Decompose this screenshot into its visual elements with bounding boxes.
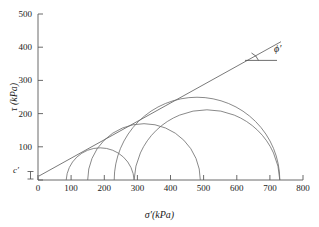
x-tick-label-500: 500 xyxy=(197,184,211,193)
x-axis-title: σ′(kPa) xyxy=(0,210,319,220)
x-tick-label-0: 0 xyxy=(36,184,41,193)
y-tick-label-100: 100 xyxy=(8,142,32,151)
x-tick-label-600: 600 xyxy=(230,184,244,193)
mohr-circles xyxy=(66,97,280,180)
x-axis-ticks xyxy=(38,175,303,180)
y-tick-label-500: 500 xyxy=(8,10,32,19)
x-tick-label-400: 400 xyxy=(164,184,178,193)
cohesion-marker xyxy=(28,172,34,180)
y-tick-label-400: 400 xyxy=(8,43,32,52)
mohr-circle-2 xyxy=(88,124,201,180)
x-tick-label-300: 300 xyxy=(131,184,145,193)
mohr-circle-1 xyxy=(66,148,134,180)
phi-angle-arc xyxy=(252,53,259,60)
mohr-circle-4 xyxy=(134,110,280,180)
mohr-circle-figure: 500 400 300 200 100 0 100 200 300 400 50… xyxy=(0,0,319,227)
failure-envelope-line xyxy=(39,42,281,176)
x-tick-label-200: 200 xyxy=(98,184,112,193)
x-tick-label-100: 100 xyxy=(64,184,78,193)
friction-angle-label: ϕ′ xyxy=(274,44,281,54)
y-axis-ticks xyxy=(38,14,43,180)
axis-lines xyxy=(38,14,303,180)
x-tick-label-700: 700 xyxy=(263,184,277,193)
mohr-circle-3 xyxy=(114,97,280,180)
cohesion-label: c′ xyxy=(13,166,19,175)
x-tick-label-800: 800 xyxy=(296,184,310,193)
y-axis-title: τ (kPa) xyxy=(9,67,19,127)
